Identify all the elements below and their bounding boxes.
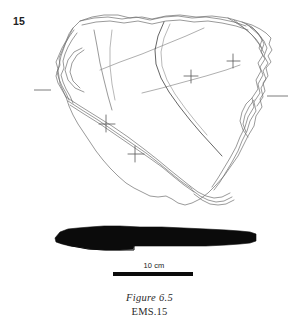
stone-profile-section [55, 226, 256, 250]
measurement-tick-marks [99, 54, 240, 162]
figure-reference: EMS.15 [0, 305, 299, 318]
scale-bar-rule [113, 272, 193, 276]
figure-caption: Figure 6.5 EMS.15 [0, 291, 299, 318]
stone-plan-outline [56, 15, 272, 205]
illustration-plate: 15 [0, 0, 299, 329]
figure-number: Figure 6.5 [0, 291, 299, 304]
scale-bar: 10 cm [113, 261, 195, 276]
scale-bar-label: 10 cm [113, 261, 195, 270]
stone-drawing [0, 0, 299, 329]
